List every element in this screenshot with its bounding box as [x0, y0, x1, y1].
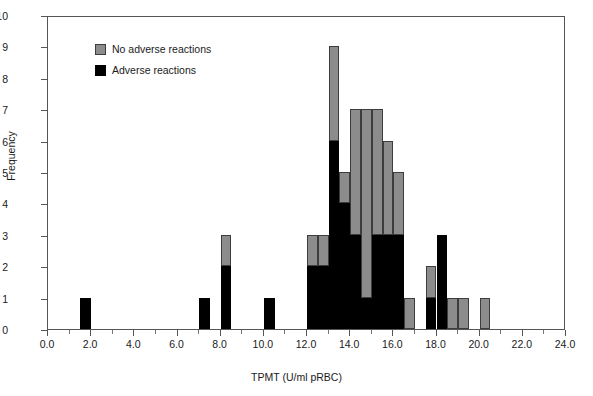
- bar-stack: [383, 141, 394, 329]
- y-tick-label: 7: [2, 105, 8, 115]
- bar-stack: [329, 46, 340, 329]
- legend-swatch-gray: [95, 44, 106, 55]
- bar-segment-no-adverse: [372, 109, 383, 235]
- x-tick-label: 16.0: [372, 339, 412, 350]
- y-tick-label: 6: [2, 137, 8, 147]
- bar-stack: [264, 298, 275, 329]
- bar-segment-adverse: [329, 141, 340, 329]
- x-tick-label: 0.0: [27, 339, 67, 350]
- bar-segment-no-adverse: [458, 298, 469, 329]
- bar-segment-adverse: [383, 235, 394, 329]
- bar-segment-adverse: [339, 203, 350, 329]
- figure-caption: [8, 386, 588, 396]
- legend-label: No adverse reactions: [112, 44, 211, 55]
- bar-segment-adverse: [318, 266, 329, 329]
- bar-stack: [318, 235, 329, 329]
- bar-segment-no-adverse: [221, 235, 232, 266]
- bar-stack: [199, 298, 210, 329]
- y-tick-label: 1: [2, 294, 8, 304]
- bar-segment-no-adverse: [339, 172, 350, 203]
- y-tick-label: 2: [2, 262, 8, 272]
- bar-segment-adverse: [264, 298, 275, 329]
- x-tick-mark: [565, 330, 566, 336]
- bar-stack: [372, 109, 383, 329]
- bar-segment-no-adverse: [361, 109, 372, 297]
- bar-stack: [393, 172, 404, 329]
- y-tick-label: 4: [2, 199, 8, 209]
- x-tick-mark: [392, 330, 393, 336]
- bar-segment-no-adverse: [383, 141, 394, 235]
- bar-stack: [437, 235, 448, 329]
- x-tick-mark-minor: [241, 330, 242, 334]
- x-tick-label: 18.0: [416, 339, 456, 350]
- x-tick-label: 12.0: [286, 339, 326, 350]
- x-tick-mark-minor: [284, 330, 285, 334]
- bar-stack: [307, 235, 318, 329]
- histogram-figure: Frequency 012345678910 TPMT (U/ml pRBC) …: [0, 0, 593, 396]
- bar-segment-adverse: [199, 298, 210, 329]
- x-tick-mark: [306, 330, 307, 336]
- bar-stack: [480, 298, 491, 329]
- y-tick-label: 10: [0, 11, 8, 21]
- x-tick-mark-minor: [371, 330, 372, 334]
- bar-segment-no-adverse: [329, 46, 340, 140]
- plot-wrapper: Frequency 012345678910 TPMT (U/ml pRBC) …: [0, 0, 593, 396]
- x-tick-label: 24.0: [545, 339, 585, 350]
- bar-segment-no-adverse: [404, 298, 415, 329]
- x-tick-label: 22.0: [502, 339, 542, 350]
- x-tick-mark: [90, 330, 91, 336]
- legend-label: Adverse reactions: [112, 65, 196, 76]
- bar-stack: [404, 298, 415, 329]
- bar-segment-no-adverse: [350, 109, 361, 235]
- bar-segment-adverse: [437, 235, 448, 329]
- y-tick-label: 8: [2, 74, 8, 84]
- x-tick-mark-minor: [155, 330, 156, 334]
- x-tick-mark-minor: [414, 330, 415, 334]
- x-tick-mark-minor: [457, 330, 458, 334]
- x-tick-mark-minor: [112, 330, 113, 334]
- bar-stack: [447, 298, 458, 329]
- x-tick-mark: [263, 330, 264, 336]
- bar-segment-adverse: [350, 235, 361, 329]
- bar-segment-no-adverse: [447, 298, 458, 329]
- y-tick-label: 9: [2, 42, 8, 52]
- x-tick-mark-minor: [543, 330, 544, 334]
- x-tick-label: 10.0: [243, 339, 283, 350]
- bar-stack: [458, 298, 469, 329]
- x-tick-mark-minor: [69, 330, 70, 334]
- y-tick-label: 3: [2, 231, 8, 241]
- bar-segment-adverse: [307, 266, 318, 329]
- bar-stack: [80, 298, 91, 329]
- bar-stack: [221, 235, 232, 329]
- x-axis-title: TPMT (U/ml pRBC): [0, 371, 593, 383]
- x-tick-mark: [177, 330, 178, 336]
- bar-segment-adverse: [80, 298, 91, 329]
- x-tick-mark-minor: [328, 330, 329, 334]
- x-tick-label: 20.0: [459, 339, 499, 350]
- bar-segment-adverse: [221, 266, 232, 329]
- x-tick-mark: [522, 330, 523, 336]
- x-tick-label: 2.0: [70, 339, 110, 350]
- x-tick-mark: [47, 330, 48, 336]
- x-tick-mark: [479, 330, 480, 336]
- x-tick-label: 8.0: [200, 339, 240, 350]
- bar-segment-adverse: [361, 298, 372, 329]
- legend-item: No adverse reactions: [95, 44, 211, 55]
- x-tick-label: 4.0: [113, 339, 153, 350]
- bar-segment-no-adverse: [318, 235, 329, 266]
- chart-legend: No adverse reactionsAdverse reactions: [95, 44, 211, 86]
- bar-stack: [361, 109, 372, 329]
- x-tick-mark-minor: [500, 330, 501, 334]
- bar-segment-no-adverse: [480, 298, 491, 329]
- bar-segment-adverse: [426, 298, 437, 329]
- x-tick-mark: [220, 330, 221, 336]
- bar-stack: [350, 109, 361, 329]
- x-tick-label: 6.0: [157, 339, 197, 350]
- bar-stack: [339, 172, 350, 329]
- legend-item: Adverse reactions: [95, 65, 211, 76]
- bar-segment-no-adverse: [426, 266, 437, 297]
- bar-segment-adverse: [372, 235, 383, 329]
- bar-stack: [426, 266, 437, 329]
- x-tick-mark-minor: [198, 330, 199, 334]
- x-tick-mark: [349, 330, 350, 336]
